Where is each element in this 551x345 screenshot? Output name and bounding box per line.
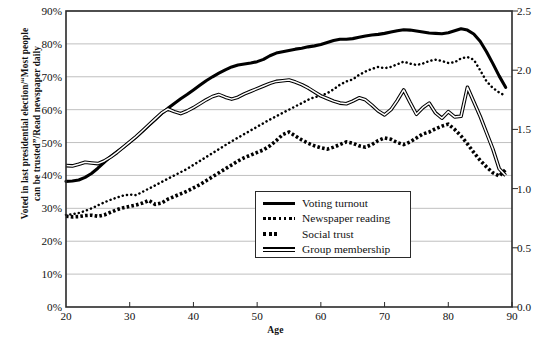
legend-label-social-trust: Social trust	[302, 228, 354, 240]
legend-item-voting-turnout: Voting turnout	[262, 195, 405, 211]
legend-item-social-trust: Social trust	[262, 226, 405, 242]
legend-item-newspaper-reading: Newspaper reading	[262, 211, 405, 227]
plot-frame	[66, 11, 512, 307]
legend-label-voting-turnout: Voting turnout	[302, 197, 368, 209]
chart-container: Voted in last presidential election/“Mos…	[0, 0, 551, 345]
legend-swatch-group-membership	[262, 243, 296, 255]
legend-swatch-social-trust	[262, 228, 296, 240]
legend-label-group-membership: Group membership	[302, 243, 390, 255]
legend-item-group-membership: Group membership	[262, 242, 405, 258]
legend-swatch-newspaper-reading	[262, 212, 296, 224]
legend-label-newspaper-reading: Newspaper reading	[302, 212, 390, 224]
legend-swatch-voting-turnout	[262, 197, 296, 209]
plot-area	[0, 0, 551, 345]
x-axis-title: Age	[0, 324, 551, 335]
series-voting-turnout	[66, 29, 506, 182]
chart-legend: Voting turnout Newspaper reading Social …	[255, 191, 411, 258]
